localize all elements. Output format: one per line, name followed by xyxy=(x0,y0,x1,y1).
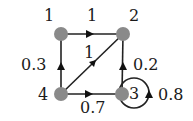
node-1-label: 1 xyxy=(44,6,54,25)
edge-3-3-label: 0.8 xyxy=(158,85,183,104)
node-1 xyxy=(54,27,68,41)
edge-4-1-label: 0.3 xyxy=(21,55,46,74)
node-3-label: 3 xyxy=(129,84,139,103)
edge-1-2-label: 1 xyxy=(87,6,97,25)
edge-2-4-label: 1 xyxy=(84,43,94,62)
markov-chain-diagram: 1 2 3 4 1 1 0.3 0.7 0.2 0.8 xyxy=(0,0,193,121)
node-3 xyxy=(115,87,129,101)
node-2-label: 2 xyxy=(129,6,139,25)
arrow-icon xyxy=(145,90,153,98)
edge-4-3-label: 0.7 xyxy=(80,98,105,117)
arrow-icon xyxy=(86,30,94,38)
arrow-icon xyxy=(119,62,127,70)
node-4-label: 4 xyxy=(38,85,48,104)
node-4 xyxy=(54,87,68,101)
arrow-icon xyxy=(85,90,93,98)
arrow-icon xyxy=(57,62,65,70)
node-2 xyxy=(116,27,130,41)
edge-3-2-label: 0.2 xyxy=(133,55,158,74)
